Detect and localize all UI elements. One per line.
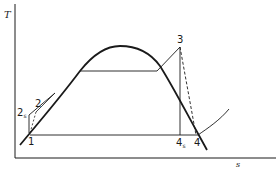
ts-diagram: T s 1 2 2s 3 4 4s [0, 0, 279, 170]
point-1-label: 1 [28, 136, 34, 147]
point-4-label: 4 [194, 137, 200, 148]
point-2s-label: 2s [17, 107, 27, 119]
superheat-line [157, 47, 180, 71]
actual-expansion-line [180, 47, 196, 135]
point-2-label: 2 [35, 98, 41, 109]
low-pressure-isobar [198, 109, 229, 135]
y-axis-label: T [4, 9, 12, 20]
pump-2s-to-dome [29, 93, 55, 115]
point-2s-subscript: s [23, 112, 26, 119]
point-4s-label: 4s [176, 137, 186, 149]
point-4s-subscript: s [182, 142, 185, 149]
saturation-dome [20, 46, 207, 150]
point-3-label: 3 [177, 34, 183, 45]
x-axis-label: s [236, 160, 240, 169]
